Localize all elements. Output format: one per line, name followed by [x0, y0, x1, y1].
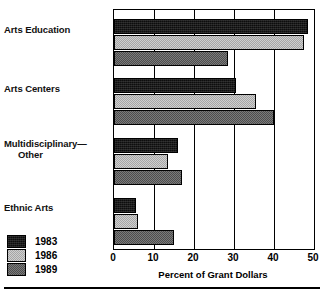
legend-swatch-icon [7, 235, 26, 248]
x-tick-label: 50 [307, 252, 318, 263]
bar [114, 230, 174, 245]
category-label-arts-centers: Arts Centers [4, 83, 110, 94]
bar [114, 170, 182, 185]
legend-item-1989: 1989 [7, 262, 103, 276]
legend: 1983 1986 1989 [7, 234, 103, 276]
legend-swatch-icon [7, 249, 26, 262]
bar [114, 138, 178, 153]
legend-label: 1986 [35, 250, 57, 261]
x-tick-label: 40 [267, 252, 278, 263]
category-label-line: Arts Education [4, 24, 70, 35]
legend-item-1983: 1983 [7, 234, 103, 248]
x-tick-label: 10 [147, 252, 158, 263]
category-label-line: Other [4, 149, 110, 160]
bar [114, 35, 304, 50]
bar [114, 19, 308, 34]
legend-item-1986: 1986 [7, 248, 103, 262]
bar [114, 110, 274, 125]
bar [114, 78, 236, 93]
category-label-line: Multidisciplinary— [4, 138, 87, 149]
bar-chart: Arts Education Arts Centers Multidiscipl… [0, 0, 324, 294]
x-tick-label: 20 [187, 252, 198, 263]
x-axis-tick-labels: 01020304050 [113, 252, 313, 266]
bottom-divider [4, 287, 320, 289]
bar [114, 94, 256, 109]
category-label-line: Ethnic Arts [4, 202, 53, 213]
bar [114, 214, 138, 229]
bar [114, 51, 228, 66]
legend-swatch-icon [7, 263, 26, 276]
plot-area [113, 9, 315, 250]
legend-label: 1989 [35, 264, 57, 275]
bar [114, 198, 136, 213]
category-label-line: Arts Centers [4, 83, 60, 94]
bar [114, 154, 168, 169]
legend-label: 1983 [35, 236, 57, 247]
category-label-arts-education: Arts Education [4, 24, 110, 35]
bars-layer [114, 10, 314, 249]
x-tick-label: 30 [227, 252, 238, 263]
x-tick-label: 0 [110, 252, 116, 263]
category-label-ethnic-arts: Ethnic Arts [4, 202, 110, 213]
x-axis-title: Percent of Grant Dollars [113, 269, 313, 280]
category-label-multidisciplinary-other: Multidisciplinary— Other [4, 138, 110, 160]
